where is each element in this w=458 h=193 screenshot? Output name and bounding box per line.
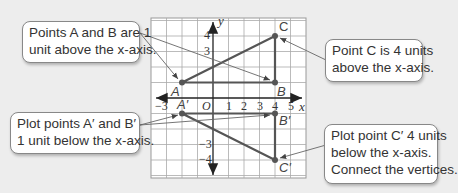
origin-label: O <box>202 99 211 114</box>
x-tick-1: 1 <box>226 99 232 114</box>
note-ab-below: Plot points A′ and B′ 1 unit below the x… <box>10 112 140 154</box>
note-line: below the x-axis. <box>331 144 431 161</box>
y-axis-label: y <box>218 13 224 29</box>
y-tick-neg4: −4 <box>199 152 212 167</box>
label-b: B <box>277 84 286 99</box>
label-b-prime: B′ <box>279 113 290 128</box>
label-c-prime: C′ <box>279 160 291 175</box>
label-a-prime: A′ <box>177 97 188 112</box>
x-tick-neg3: −3 <box>155 99 168 114</box>
y-tick-3: 3 <box>204 44 210 59</box>
note-line: 1 unit below the x-axis. <box>17 132 133 149</box>
y-tick-4: 4 <box>204 28 210 43</box>
note-ab-above: Points A and B are 1 unit above the x-ax… <box>22 21 140 63</box>
x-tick-5: 5 <box>288 99 294 114</box>
note-line: Plot point C′ 4 units <box>331 127 431 144</box>
note-c-above: Point C is 4 units above the x-axis. <box>325 39 423 82</box>
label-c: C <box>279 19 288 34</box>
note-c-below: Plot point C′ 4 units below the x-axis. … <box>324 124 438 184</box>
x-tick-2: 2 <box>241 99 247 114</box>
note-line: Point C is 4 units <box>332 42 416 59</box>
note-line: Plot points A′ and B′ <box>17 115 133 132</box>
note-line: Points A and B are 1 <box>29 24 133 41</box>
note-line: Connect the vertices. <box>331 161 431 178</box>
note-line: unit above the x-axis. <box>29 41 133 58</box>
x-tick-4: 4 <box>272 99 278 114</box>
x-tick-3: 3 <box>257 99 263 114</box>
x-axis-label: x <box>299 99 305 115</box>
y-tick-neg3: −3 <box>199 137 212 152</box>
note-line: above the x-axis. <box>332 59 416 76</box>
